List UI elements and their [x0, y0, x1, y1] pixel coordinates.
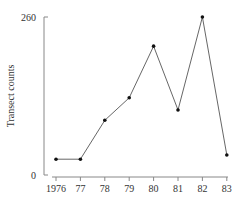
data-point — [176, 108, 180, 112]
x-tick-label: 79 — [124, 183, 134, 194]
data-point — [54, 157, 58, 161]
data-point — [201, 15, 205, 19]
x-ticks: 197677787980818283 — [46, 177, 232, 194]
series-line — [56, 17, 227, 159]
line-chart: 197677787980818283 2600 Transect counts — [0, 0, 237, 204]
data-markers — [54, 15, 228, 161]
y-axis-label: Transect counts — [5, 65, 16, 128]
data-point — [152, 44, 156, 48]
axes — [44, 17, 228, 177]
x-tick-label: 1976 — [46, 183, 66, 194]
x-tick-label: 81 — [173, 183, 183, 194]
data-point — [103, 119, 107, 123]
x-tick-label: 82 — [197, 183, 207, 194]
y-tick-label: 0 — [31, 170, 36, 181]
data-point — [79, 157, 83, 161]
y-tick-label: 260 — [21, 12, 36, 23]
x-tick-label: 80 — [149, 183, 159, 194]
y-ticks: 2600 — [21, 12, 36, 181]
x-tick-label: 77 — [75, 183, 85, 194]
data-point — [127, 96, 131, 100]
x-tick-label: 83 — [222, 183, 232, 194]
data-point — [225, 153, 229, 157]
x-tick-label: 78 — [100, 183, 110, 194]
